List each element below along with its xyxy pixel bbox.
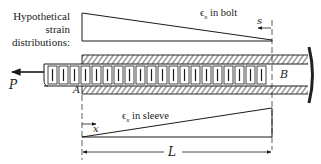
label-b: B [280, 69, 288, 80]
bolt-strain-triangle [82, 13, 272, 41]
sleeve-strain-text: in sleeve [129, 110, 169, 121]
label-x: x [93, 124, 99, 134]
label-p: P [9, 79, 17, 91]
sleeve-strain-label: ϵx in sleeve [122, 111, 169, 124]
bolt [44, 64, 308, 86]
diagram-graphics [0, 0, 321, 164]
sleeve-strain-triangle [82, 108, 272, 137]
bolt-strain-text: in bolt [207, 7, 237, 18]
sleeve-top [82, 55, 308, 64]
wall-support [309, 47, 313, 103]
label-l: L [168, 146, 176, 158]
sleeve-bottom [82, 86, 308, 94]
label-a: A [73, 85, 80, 95]
bolt-strain-label: ϵx in bolt [200, 8, 237, 21]
label-s: s [257, 16, 262, 26]
